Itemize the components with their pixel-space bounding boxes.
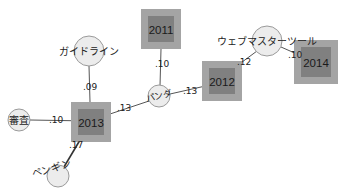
node-2013-label: 2013 [78, 117, 104, 129]
node-guideline-label: ガイドライン [59, 46, 119, 57]
node-review[interactable]: 審査 [8, 109, 30, 131]
node-2011[interactable]: 2011 [141, 9, 181, 49]
edge-weight-panda-2013: .13 [117, 103, 131, 113]
node-guideline[interactable]: ガイドライン [59, 36, 119, 66]
edge-weight-webmaster-2014: .10 [288, 50, 303, 60]
node-review-label: 審査 [9, 114, 29, 126]
node-2012[interactable]: 2012 [202, 61, 242, 101]
edge-weight-panda-2012: .13 [183, 86, 197, 96]
edge-weight-2013-penguin: .17 [69, 140, 83, 150]
node-2011-label: 2011 [149, 24, 174, 36]
edge-weight-guideline-2013: .09 [83, 82, 98, 92]
node-panda[interactable]: パンダ [144, 85, 173, 107]
node-webmaster-tools-label: ウェブマスターツール [217, 35, 317, 47]
network-diagram: 2011 2012 2013 2014 ガイドライン ウェブマスターツール パン… [0, 0, 351, 190]
edge-weight-2011-panda: .10 [155, 59, 170, 69]
node-2013[interactable]: 2013 [71, 102, 111, 142]
edge-weight-2012-webmaster: .12 [237, 57, 251, 67]
node-penguin[interactable]: ペンギン [30, 158, 71, 187]
node-2012-label: 2012 [209, 76, 235, 88]
node-2014-label: 2014 [303, 57, 329, 69]
edge-weight-review-2013: .10 [49, 115, 64, 125]
